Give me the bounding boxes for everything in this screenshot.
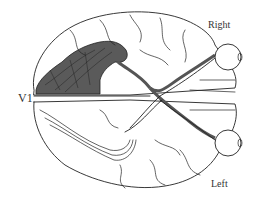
visual-pathway-diagram [0,0,259,203]
optic-tract-right [118,62,150,88]
optic-nerve-crossing [150,88,215,138]
label-right: Right [208,19,230,30]
left-optic-radiation [40,110,136,160]
optic-nerve-right-eye [150,55,215,91]
label-left: Left [211,178,228,189]
optic-nerve-left-outline [130,58,215,128]
optic-radiation-shaded [36,41,127,94]
left-hemisphere-outline [34,100,237,188]
brain-sulci [70,15,235,188]
left-eye [215,130,242,156]
right-eye [215,44,242,70]
label-v1: V1 [18,91,33,106]
